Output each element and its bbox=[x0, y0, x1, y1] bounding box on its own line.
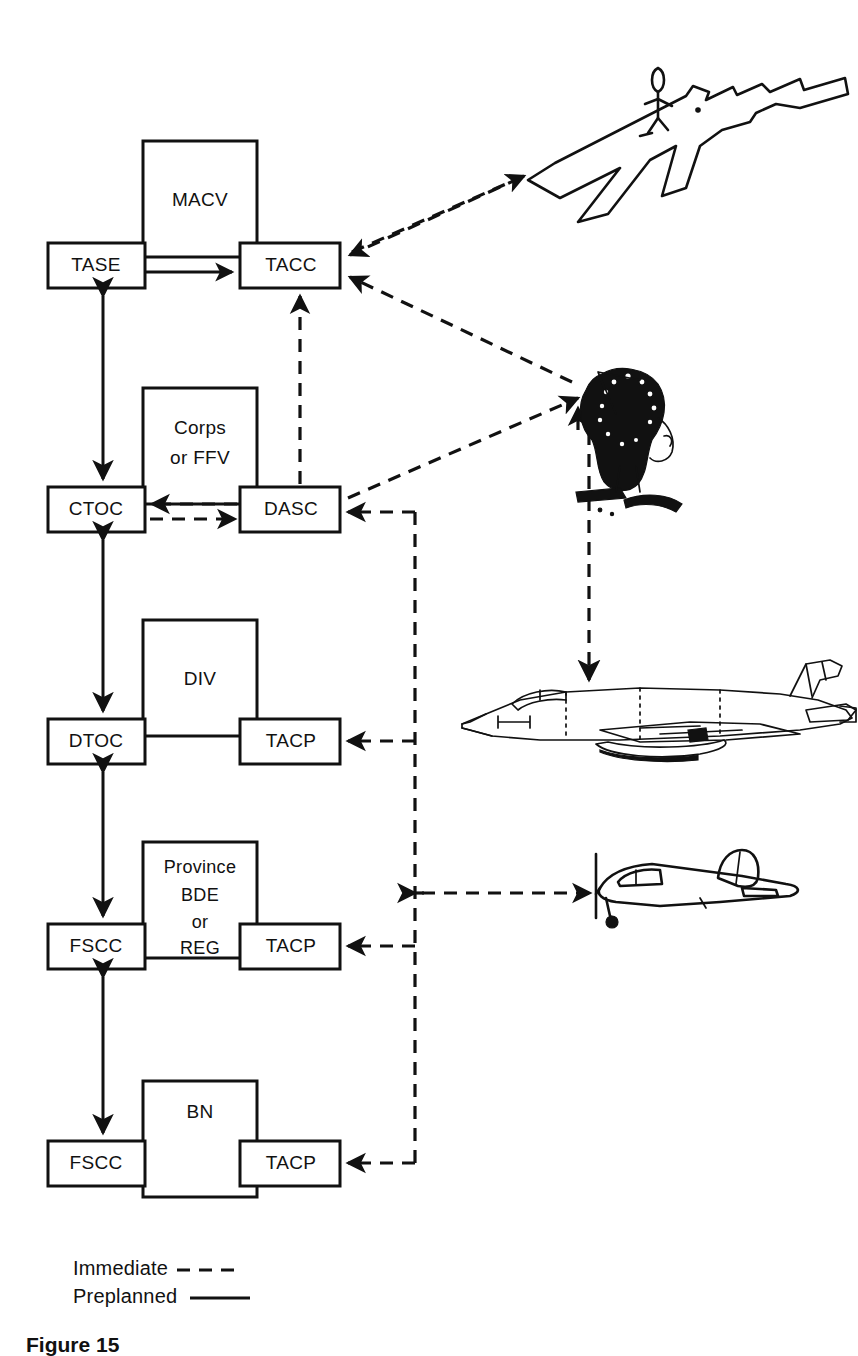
node-div-label: DIV bbox=[184, 668, 217, 689]
node-fscc-bde-label: FSCC bbox=[70, 935, 123, 956]
node-tacp-bde-label: TACP bbox=[266, 935, 316, 956]
node-macv-label: MACV bbox=[172, 189, 228, 210]
node-dtoc-label: DTOC bbox=[69, 730, 124, 751]
legend-item-immediate-label: Immediate bbox=[73, 1257, 168, 1279]
node-tacp-div[interactable]: TACP bbox=[240, 719, 340, 764]
node-fscc-bn-label: FSCC bbox=[70, 1152, 123, 1173]
node-province-label-line3: or bbox=[192, 912, 209, 932]
air-request-net-diagram: MACV TASE TACC Corps or FFV CTOC DASC DI… bbox=[0, 0, 858, 1356]
node-province-label-line1: Province bbox=[164, 857, 236, 877]
node-dasc[interactable]: DASC bbox=[240, 487, 340, 532]
legend-item-preplanned-label: Preplanned bbox=[73, 1285, 177, 1307]
node-ctoc[interactable]: CTOC bbox=[48, 487, 145, 532]
figure-caption: Figure 15 bbox=[26, 1333, 120, 1356]
node-tacp-bde[interactable]: TACP bbox=[240, 924, 340, 969]
node-dtoc[interactable]: DTOC bbox=[48, 719, 145, 764]
node-tacc-label: TACC bbox=[265, 254, 317, 275]
node-ctoc-label: CTOC bbox=[69, 498, 124, 519]
node-tacc[interactable]: TACC bbox=[240, 243, 340, 288]
node-corps-label-line1: Corps bbox=[174, 417, 226, 438]
node-bn-label: BN bbox=[187, 1101, 214, 1122]
node-corps-label-line2: or FFV bbox=[170, 447, 230, 468]
node-macv[interactable]: MACV bbox=[143, 141, 257, 257]
node-tase-label: TASE bbox=[71, 254, 120, 275]
node-province-label-line2: BDE bbox=[181, 885, 219, 905]
node-dasc-label: DASC bbox=[264, 498, 318, 519]
figure-caption-text: Figure 15 bbox=[26, 1333, 120, 1356]
node-fscc-bn[interactable]: FSCC bbox=[48, 1141, 145, 1186]
node-fscc-bde[interactable]: FSCC bbox=[48, 924, 145, 969]
node-tacp-div-label: TACP bbox=[266, 730, 316, 751]
node-tacp-bn[interactable]: TACP bbox=[240, 1141, 340, 1186]
node-province-label-line4: REG bbox=[180, 938, 220, 958]
node-tase[interactable]: TASE bbox=[48, 243, 145, 288]
node-tacp-bn-label: TACP bbox=[266, 1152, 316, 1173]
